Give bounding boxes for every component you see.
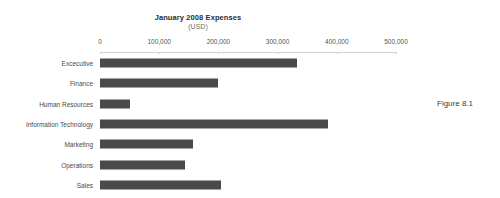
chart-subtitle: (USD) — [0, 23, 396, 30]
chart-title: January 2008 Expenses — [0, 13, 396, 22]
x-tick-mark — [159, 52, 160, 54]
bar-row: Human Resources — [0, 94, 500, 114]
x-tick-label: 300,000 — [266, 38, 290, 45]
x-tick-label: 500,000 — [384, 38, 408, 45]
bar-row: Sales — [0, 175, 500, 195]
figure-container: January 2008 Expenses (USD) 0100,000200,… — [0, 0, 500, 198]
x-tick-label: 200,000 — [207, 38, 231, 45]
bar-row: Operations — [0, 154, 500, 174]
bar-row: Marketing — [0, 134, 500, 154]
x-tick-mark — [337, 52, 338, 54]
x-tick-mark — [100, 52, 101, 54]
figure-caption: Figure 8.1 — [437, 99, 473, 108]
bar-category-label: Excecutive — [0, 60, 93, 67]
bar-category-label: Information Technology — [0, 120, 93, 127]
bar — [100, 79, 218, 88]
bar — [100, 140, 193, 149]
x-tick-label: 0 — [98, 38, 102, 45]
bar-category-label: Operations — [0, 161, 93, 168]
bar-category-label: Sales — [0, 181, 93, 188]
bar — [100, 160, 185, 169]
bar — [100, 180, 221, 189]
bar — [100, 99, 130, 108]
plot-area: ExcecutiveFinanceHuman ResourcesInformat… — [0, 53, 500, 195]
bar-row: Excecutive — [0, 53, 500, 73]
bar — [100, 119, 328, 128]
x-tick-mark — [278, 52, 279, 54]
bar-row: Finance — [0, 73, 500, 93]
bar — [100, 59, 297, 68]
bar-category-label: Finance — [0, 80, 93, 87]
bar-category-label: Human Resources — [0, 100, 93, 107]
x-tick-mark — [396, 52, 397, 54]
x-tick-mark — [218, 52, 219, 54]
x-axis-tick-labels: 0100,000200,000300,000400,000500,000 — [0, 38, 500, 48]
x-tick-label: 400,000 — [325, 38, 349, 45]
bar-category-label: Marketing — [0, 141, 93, 148]
x-tick-label: 100,000 — [147, 38, 171, 45]
bar-row: Information Technology — [0, 114, 500, 134]
